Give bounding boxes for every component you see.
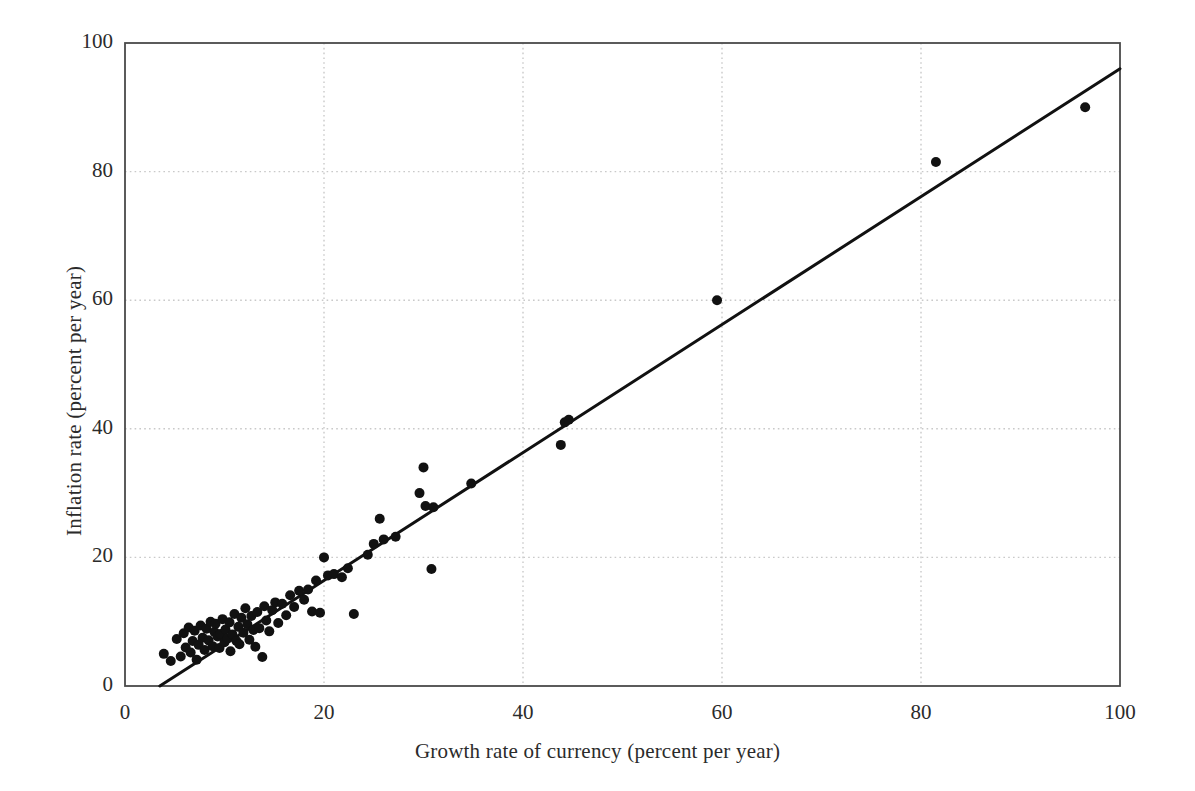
x-tick-label-20: 20 <box>294 700 354 725</box>
trendline <box>160 69 1120 686</box>
x-tick-label-80: 80 <box>891 700 951 725</box>
chart-figure: 020406080100 020406080100 Growth rate of… <box>0 0 1195 791</box>
y-tick-label-20: 20 <box>53 543 113 568</box>
scatter-plot-canvas <box>0 0 1195 791</box>
x-tick-label-100: 100 <box>1090 700 1150 725</box>
gridlines-group <box>125 43 1120 686</box>
x-axis-title: Growth rate of currency (percent per yea… <box>0 739 1195 764</box>
plot-frame <box>125 43 1120 686</box>
y-tick-label-100: 100 <box>53 29 113 54</box>
x-tick-label-0: 0 <box>95 700 155 725</box>
x-tick-label-40: 40 <box>493 700 553 725</box>
y-tick-label-0: 0 <box>53 672 113 697</box>
x-tick-label-60: 60 <box>692 700 752 725</box>
data-points-group <box>159 102 1090 666</box>
y-axis-title: Inflation rate (percent per year) <box>62 266 87 536</box>
y-tick-label-80: 80 <box>53 158 113 183</box>
